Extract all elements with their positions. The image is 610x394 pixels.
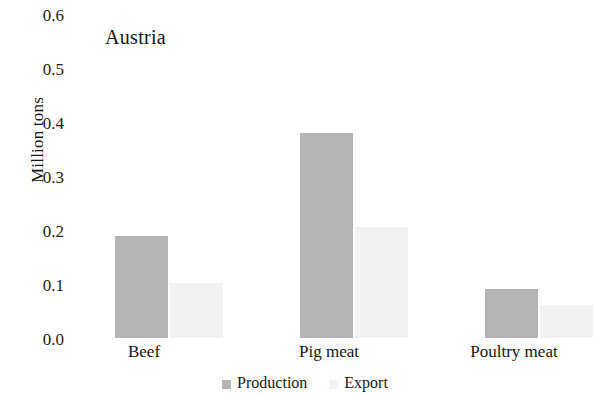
bar-beef-export[interactable] (170, 283, 223, 338)
y-tick-label: 0.3 (18, 169, 64, 186)
y-tick-label: 0.5 (18, 61, 64, 78)
legend-label: Production (237, 374, 307, 392)
y-axis-tick-labels: 0.6 0.5 0.4 0.3 0.2 0.1 0.0 (0, 0, 64, 394)
x-tick-label-beef: Beef (64, 342, 224, 362)
legend-swatch-icon (329, 380, 338, 389)
legend-label: Export (344, 374, 388, 392)
bar-beef-production[interactable] (115, 236, 168, 338)
y-tick-label: 0.1 (18, 277, 64, 294)
bar-poultry-meat-export[interactable] (540, 305, 593, 338)
y-tick-label: 0.2 (18, 223, 64, 240)
bar-pig-meat-production[interactable] (300, 133, 353, 338)
plot-area: Beef Pig meat Poultry meat (70, 0, 610, 394)
y-tick-label: 0.4 (18, 115, 64, 132)
legend: Production Export (0, 374, 610, 392)
x-tick-label-pig-meat: Pig meat (249, 342, 409, 362)
legend-swatch-icon (222, 380, 231, 389)
legend-item-export[interactable]: Export (329, 374, 388, 392)
legend-item-production[interactable]: Production (222, 374, 307, 392)
y-tick-label: 0.0 (18, 331, 64, 348)
bar-chart: Austria Million tons 0.6 0.5 0.4 0.3 0.2… (0, 0, 610, 394)
y-tick-label: 0.6 (18, 7, 64, 24)
bar-pig-meat-export[interactable] (355, 227, 408, 338)
x-tick-label-poultry-meat: Poultry meat (434, 342, 594, 362)
bar-poultry-meat-production[interactable] (485, 289, 538, 338)
